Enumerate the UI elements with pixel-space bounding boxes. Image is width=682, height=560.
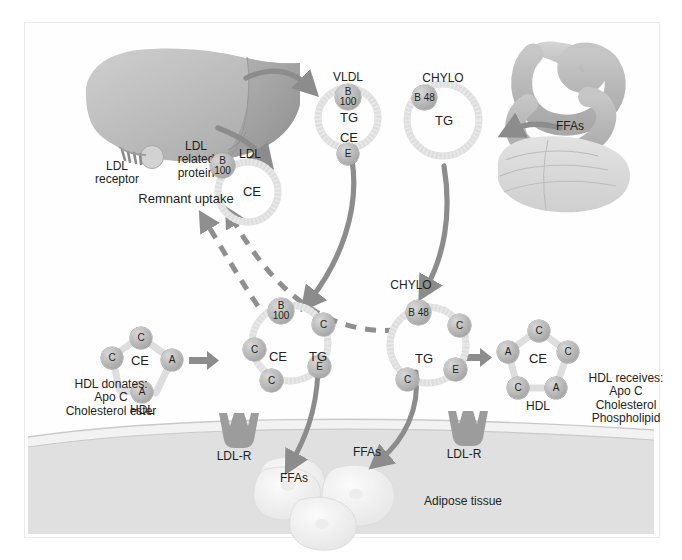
ffas-label-left: FFAs [280,472,308,485]
ldl-title: LDL [239,148,261,161]
chylo-core-tg: TG [435,114,453,129]
apo-b100-ldl: B 100 [210,153,235,178]
apo-b100-vldl: B 100 [335,84,361,110]
ffas-intestine-label: FFAs [556,120,584,133]
apo-e-vldl: E [337,143,359,165]
arrow-hdl-donate [189,351,219,370]
apo-a-hdl-right-2: A [545,377,567,399]
hdl-left-core-ce: CE [131,354,149,369]
adipose-region [28,411,654,550]
apo-a-hdl-right-1: A [497,341,519,363]
chylo-remnant-title: CHYLO [390,279,431,292]
diagram-canvas: LDL receptor LDL related protein Remnant… [0,0,682,560]
ldl-r-label-left: LDL-R [217,450,252,463]
ldl-r-receptor-right [448,411,488,446]
apo-c-remnant-1: C [312,313,335,336]
apo-c-chylo-remnant-1: C [448,314,471,337]
arrow-vldl-to-remnant [310,160,354,300]
vldl-core-tg: TG [340,111,358,126]
apo-b48-chylo: B 48 [412,85,437,110]
chylo-remnant-core-tg: TG [415,352,433,367]
hdl-donates-text: HDL donates: Apo C Cholesterol ester [66,378,157,418]
apo-b48-remnant: B 48 [406,300,431,325]
chylo-title: CHYLO [422,72,463,85]
remnant-core-tg: TG [309,350,327,365]
arrow-remnant-uptake-left [206,222,258,306]
ffas-label-right: FFAs [353,446,381,459]
hdl-receives-text: HDL receives: Apo C Cholesterol Phosphol… [589,372,664,426]
apo-c-remnant-3: C [260,369,283,392]
remnant-uptake-label: Remnant uptake [138,192,233,207]
arrow-chylo-to-remnant [426,166,447,288]
apo-a-hdl-left-1: A [161,349,183,371]
remnant-core-ce: CE [269,350,287,365]
apo-c-hdl-right-3: C [507,377,529,399]
hdl-right-core-ce: CE [529,352,547,367]
apo-e-chylo-remnant: E [444,358,467,381]
apo-c-remnant-2: C [243,338,266,361]
apo-c-chylo-remnant-2: C [396,368,419,391]
adipose-tissue-label: Adipose tissue [424,495,502,508]
hdl-right-title: HDL [526,400,550,413]
vldl-title: VLDL [333,71,363,84]
apo-c-hdl-left-1: C [130,327,152,349]
ldl-r-receptor-left [219,413,259,448]
ldl-core-ce: CE [243,185,261,200]
ldl-r-label-right: LDL-R [447,448,482,461]
ldl-receptor-label: LDL receptor [95,160,139,187]
ldl-related-protein-label: LDL related protein [178,140,215,180]
apo-c-hdl-right-1: C [528,320,550,342]
apo-c-hdl-left-2: C [101,347,123,369]
apo-c-hdl-right-2: C [557,341,579,363]
apo-b100-remnant: B 100 [268,298,294,324]
